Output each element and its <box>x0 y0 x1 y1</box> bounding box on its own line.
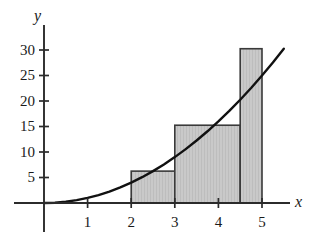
y-tick-label-20: 20 <box>20 94 35 109</box>
riemann-rectangle-3 <box>240 49 262 203</box>
y-tick-label-5: 5 <box>28 170 36 185</box>
x-tick-label-3: 3 <box>160 215 190 230</box>
y-tick-label-25: 25 <box>20 68 35 83</box>
y-tick-label-15: 15 <box>20 119 35 134</box>
riemann-rectangles <box>131 49 262 203</box>
plot-area <box>0 0 315 242</box>
x-tick-label-5: 5 <box>247 215 277 230</box>
riemann-rectangle-2 <box>175 125 240 203</box>
figure-graph-of-x-squared-with-riemann-rectangles: 5101520253012345yx <box>0 0 315 242</box>
x-tick-label-2: 2 <box>116 215 146 230</box>
y-axis-label: y <box>34 8 41 24</box>
x-axis-label: x <box>295 194 302 210</box>
x-tick-label-4: 4 <box>203 215 233 230</box>
riemann-rectangle-1 <box>131 171 175 203</box>
y-tick-label-10: 10 <box>20 145 35 160</box>
x-tick-label-1: 1 <box>73 215 103 230</box>
y-tick-label-30: 30 <box>20 43 35 58</box>
